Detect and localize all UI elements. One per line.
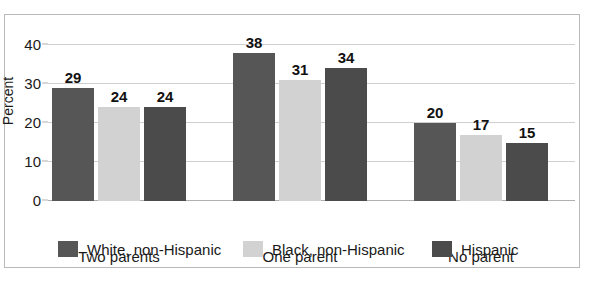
- legend-label: Hispanic: [461, 242, 519, 257]
- bar-no-parent-black: 17: [460, 135, 502, 201]
- bar-value-label: 24: [111, 89, 128, 104]
- bar-one-parent-black: 31: [279, 80, 321, 201]
- chart-legend: White, non-Hispanic Black, non-Hispanic …: [0, 238, 605, 262]
- bar-value-label: 31: [292, 62, 309, 77]
- bar-two-parents-hispanic: 24: [144, 107, 186, 201]
- tick-stub-40: [42, 44, 48, 45]
- bar-value-label: 24: [157, 89, 174, 104]
- tick-stub-20: [42, 122, 48, 123]
- y-tick-label-10: 10: [24, 154, 41, 169]
- legend-item-black-non-hispanic: Black, non-Hispanic: [243, 238, 405, 260]
- legend-item-white-non-hispanic: White, non-Hispanic: [58, 238, 221, 260]
- bar-no-parent-white: 20: [414, 123, 456, 201]
- bar-two-parents-black: 24: [98, 107, 140, 201]
- y-tick-label-40: 40: [24, 37, 41, 52]
- tick-stub-0: [42, 200, 48, 201]
- bar-value-label: 34: [338, 50, 355, 65]
- bar-two-parents-white: 29: [52, 88, 94, 201]
- legend-label: White, non-Hispanic: [87, 242, 221, 257]
- plot-area: 40 30 20 10 0 29 24 24 38: [48, 40, 575, 201]
- bar-value-label: 20: [427, 105, 444, 120]
- bar-one-parent-hispanic: 34: [325, 68, 367, 201]
- y-tick-label-0: 0: [33, 193, 41, 208]
- gridline-40: 40: [48, 44, 575, 45]
- y-tick-label-30: 30: [24, 76, 41, 91]
- bar-no-parent-hispanic: 15: [506, 143, 548, 201]
- bar-value-label: 15: [519, 125, 536, 140]
- bar-one-parent-white: 38: [233, 53, 275, 201]
- tick-stub-30: [42, 83, 48, 84]
- legend-item-hispanic: Hispanic: [432, 238, 519, 260]
- y-tick-label-20: 20: [24, 115, 41, 130]
- bar-chart-figure: Percent 40 30 20 10 0 29 24: [0, 0, 605, 284]
- bar-value-label: 17: [473, 117, 490, 132]
- legend-label: Black, non-Hispanic: [272, 242, 405, 257]
- bar-value-label: 38: [246, 35, 263, 50]
- y-axis-title: Percent: [0, 77, 16, 125]
- bar-value-label: 29: [65, 70, 82, 85]
- legend-swatch-icon: [432, 241, 452, 257]
- legend-swatch-icon: [243, 241, 263, 257]
- legend-swatch-icon: [58, 241, 78, 257]
- tick-stub-10: [42, 161, 48, 162]
